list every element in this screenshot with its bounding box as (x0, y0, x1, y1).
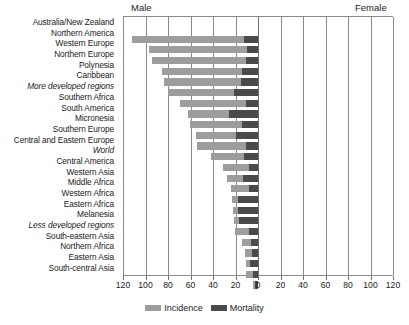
bar-row (123, 45, 393, 56)
bar-row (123, 152, 393, 163)
category-label: Northern Europe (0, 49, 118, 60)
x-tick-label: 60 (179, 280, 203, 290)
legend-label-incidence: Incidence (164, 303, 203, 313)
category-label: Eastern Asia (0, 252, 118, 263)
x-tick-label: 40 (291, 280, 315, 290)
chart-legend: Incidence Mortality (0, 303, 409, 313)
incidence-swatch-icon (145, 305, 161, 311)
bar-row (123, 120, 393, 131)
x-tick-label: 120 (111, 280, 135, 290)
mortality-bar (247, 46, 258, 53)
panel-label-male: Male (131, 2, 152, 13)
category-label: Southern Africa (0, 92, 118, 103)
category-label: Less developed regions (0, 220, 118, 231)
x-tick-label: 100 (134, 280, 158, 290)
mortality-bar (229, 110, 258, 117)
category-label: Southern Europe (0, 124, 118, 135)
category-label: South-central Asia (0, 263, 118, 274)
bar-row (123, 34, 393, 45)
category-label: World (0, 145, 118, 156)
bar-row (123, 162, 393, 173)
legend-label-mortality: Mortality (230, 303, 264, 313)
category-label: More developed regions (0, 81, 118, 92)
bar-row (123, 237, 393, 248)
mortality-bar (249, 228, 258, 235)
mortality-bar (246, 100, 258, 107)
bar-row (123, 205, 393, 216)
bar-row (123, 98, 393, 109)
category-label: Australia/New Zealand (0, 17, 118, 28)
bar-row (123, 109, 393, 120)
incidence-bar (152, 57, 258, 64)
category-label: South-eastern Asia (0, 231, 118, 242)
bar-row (123, 194, 393, 205)
bar-row (123, 87, 393, 98)
mortality-bar (244, 36, 258, 43)
category-label: Polynesia (0, 60, 118, 71)
incidence-bar (132, 36, 258, 43)
mortality-bar (243, 175, 258, 182)
category-label: Eastern Africa (0, 199, 118, 210)
category-label: Northern America (0, 28, 118, 39)
x-tick-label: 40 (201, 280, 225, 290)
mortality-bar (250, 260, 258, 267)
mortality-bar (234, 89, 258, 96)
incidence-bar (149, 46, 258, 53)
category-label: Melanesia (0, 209, 118, 220)
bar-row (123, 130, 393, 141)
category-label: Western Africa (0, 188, 118, 199)
category-label: Western Europe (0, 38, 118, 49)
bar-row (123, 173, 393, 184)
mortality-bar (249, 164, 258, 171)
x-axis-ticks: 12010080604020020406080100120 (0, 276, 409, 294)
mortality-bar (239, 217, 258, 224)
bar-row (123, 55, 393, 66)
mortality-bar (236, 132, 258, 139)
x-tick-label: 100 (359, 280, 383, 290)
bar-row (123, 258, 393, 269)
mortality-bar (242, 121, 258, 128)
mortality-bar (238, 207, 258, 214)
chart-container: Male Female Australia/New ZealandNorther… (0, 0, 409, 325)
mortality-bar (241, 78, 258, 85)
bar-row (123, 66, 393, 77)
bar-row (123, 77, 393, 88)
category-label: Middle Africa (0, 177, 118, 188)
x-tick-label: 20 (269, 280, 293, 290)
category-label: Micronesia (0, 113, 118, 124)
bar-row (123, 141, 393, 152)
mortality-bar (251, 239, 258, 246)
x-tick-label: 20 (224, 280, 248, 290)
category-label: Central and Eastern Europe (0, 135, 118, 146)
category-label: Western Asia (0, 167, 118, 178)
x-tick-label: 120 (381, 280, 405, 290)
category-label: South America (0, 103, 118, 114)
mortality-bar (246, 57, 258, 64)
bar-row (123, 184, 393, 195)
bar-row (123, 216, 393, 227)
mortality-bar (238, 196, 258, 203)
legend-item-mortality: Mortality (211, 303, 264, 313)
mortality-bar (244, 153, 258, 160)
mortality-bar (252, 249, 258, 256)
x-tick-label: 80 (336, 280, 360, 290)
bar-row (123, 248, 393, 259)
gridline (393, 17, 394, 275)
legend-item-incidence: Incidence (145, 303, 203, 313)
category-label: Central America (0, 156, 118, 167)
category-label: Caribbean (0, 70, 118, 81)
x-tick-label: 0 (246, 280, 270, 290)
bar-rows (123, 34, 393, 292)
panel-label-female: Female (355, 2, 387, 13)
bar-row (123, 226, 393, 237)
category-axis-labels: Australia/New ZealandNorthern AmericaWes… (0, 17, 118, 274)
x-tick-label: 60 (314, 280, 338, 290)
mortality-swatch-icon (211, 305, 227, 311)
mortality-bar (246, 142, 258, 149)
mortality-bar (242, 68, 258, 75)
plot-area (123, 17, 393, 275)
mortality-bar (249, 185, 258, 192)
category-label: Northern Africa (0, 241, 118, 252)
x-tick-label: 80 (156, 280, 180, 290)
